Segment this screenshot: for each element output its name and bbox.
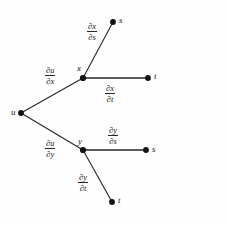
node-t-lower (109, 199, 115, 205)
node-label-y: y (78, 137, 82, 146)
edge-label-dx-ds: ∂x ∂s (87, 22, 97, 42)
fraction-dx-ds: ∂x ∂s (87, 22, 97, 42)
fraction-du-dy: ∂u ∂y (45, 139, 55, 159)
node-label-t-lower: t (118, 196, 121, 205)
node-s-upper (110, 19, 116, 25)
fraction-denominator: ∂x (45, 77, 55, 86)
fraction-denominator: ∂s (87, 33, 97, 42)
chain-rule-tree-diagram: u x y s t s t ∂u ∂x ∂u ∂y ∂x ∂s ∂x ∂t (0, 0, 227, 225)
tree-edges-and-nodes (0, 0, 227, 225)
fraction-numerator: ∂x (87, 22, 97, 31)
node-y (80, 147, 86, 153)
node-u (18, 110, 24, 116)
node-x (80, 75, 86, 81)
node-label-s-lower: s (152, 145, 156, 154)
fraction-numerator: ∂y (78, 173, 88, 182)
fraction-denominator: ∂t (78, 184, 88, 193)
edge-label-du-dx: ∂u ∂x (45, 66, 55, 86)
fraction-numerator: ∂u (45, 66, 55, 75)
fraction-dx-dt: ∂x ∂t (105, 84, 115, 104)
node-s-lower (143, 147, 149, 153)
fraction-du-dx: ∂u ∂x (45, 66, 55, 86)
fraction-numerator: ∂u (45, 139, 55, 148)
fraction-denominator: ∂y (45, 150, 55, 159)
node-label-s-upper: s (119, 16, 123, 25)
node-label-u: u (11, 108, 16, 117)
node-label-t-upper: t (154, 72, 157, 81)
fraction-dy-ds: ∂y ∂s (108, 126, 118, 146)
edge-label-dy-ds: ∂y ∂s (108, 126, 118, 146)
fraction-denominator: ∂s (108, 137, 118, 146)
edge-label-dy-dt: ∂y ∂t (78, 173, 88, 193)
fraction-numerator: ∂x (105, 84, 115, 93)
edge-label-du-dy: ∂u ∂y (45, 139, 55, 159)
fraction-numerator: ∂y (108, 126, 118, 135)
node-t-upper (145, 75, 151, 81)
fraction-dy-dt: ∂y ∂t (78, 173, 88, 193)
fraction-denominator: ∂t (105, 95, 115, 104)
edge-label-dx-dt: ∂x ∂t (105, 84, 115, 104)
node-label-x: x (77, 64, 81, 73)
